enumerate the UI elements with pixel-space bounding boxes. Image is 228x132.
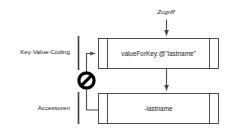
diagram-canvas: Zugriff Key-Value-Coding Accessoren valu… [0, 0, 228, 132]
kvc-box-text: valueForKey:@"lastname" [121, 50, 196, 58]
accessor-box-text: -lastname [144, 105, 173, 112]
accessor-box: -lastname [99, 94, 219, 124]
kvc-box: valueForKey:@"lastname" [99, 39, 219, 69]
kvc-accessor-diagram: Zugriff Key-Value-Coding Accessoren valu… [0, 0, 228, 132]
zugriff-label: Zugriff [156, 8, 176, 15]
prohibition-icon [77, 71, 96, 90]
label-accessoren: Accessoren [38, 104, 71, 111]
label-key-value-coding: Key-Value-Coding [20, 48, 70, 55]
